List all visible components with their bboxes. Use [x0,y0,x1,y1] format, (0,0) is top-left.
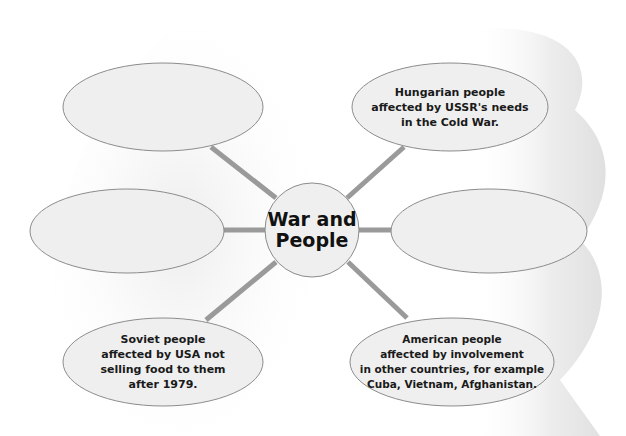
center-label-line1: War and [267,209,356,230]
node-bottom-right-text: American people affected by involvement … [350,326,554,398]
center-label: War and People [265,183,359,277]
node-bottom-left-text: Soviet people affected by USA not sellin… [73,326,253,398]
node-top-right-text: Hungarian people affected by USSR's need… [360,75,540,139]
node-top-left [63,63,263,151]
center-label-line2: People [276,230,349,251]
node-middle-left [30,189,224,273]
node-middle-right [391,189,587,273]
